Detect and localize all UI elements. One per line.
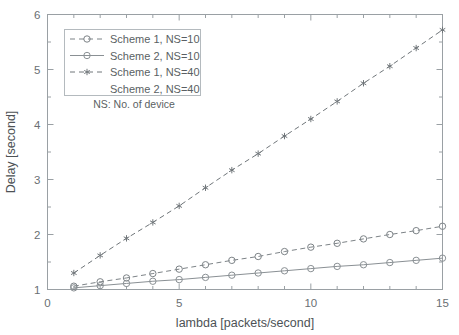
chart-figure: 123456 051015 lambda [packets/second] De… [0, 0, 459, 335]
legend-item-4[interactable]: Scheme 2, NS=40 [110, 83, 200, 95]
x-tick-label: 10 [304, 297, 317, 309]
y-tick-label: 4 [34, 119, 41, 131]
x-tick-label: 0 [44, 297, 50, 309]
y-tick-label: 5 [34, 64, 40, 76]
legend-note: NS: No. of device [93, 98, 175, 110]
legend-label: Scheme 1, NS=40 [110, 66, 200, 78]
plot-canvas: 123456 051015 lambda [packets/second] De… [0, 0, 459, 335]
y-axis-title: Delay [second] [4, 111, 18, 194]
legend-label: Scheme 2, NS=40 [110, 83, 200, 95]
y-tick-label: 2 [34, 229, 40, 241]
y-tick-label: 6 [34, 9, 40, 21]
x-axis-title: lambda [packets/second] [176, 316, 314, 330]
legend-label: Scheme 1, NS=10 [110, 33, 200, 45]
legend-label: Scheme 2, NS=10 [110, 50, 200, 62]
y-tick-label: 1 [34, 284, 40, 296]
y-tick-label: 3 [34, 174, 40, 186]
x-tick-label: 15 [436, 297, 449, 309]
x-tick-label: 5 [176, 297, 182, 309]
